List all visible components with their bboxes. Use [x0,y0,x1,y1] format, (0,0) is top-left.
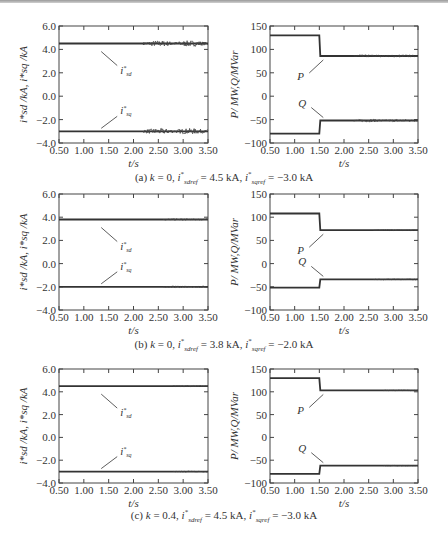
x-tick-label: 3.00 [384,311,404,323]
y-tick-label: 50 [256,409,268,421]
caption-isq-sub: sqref [256,516,270,524]
caption-b: (b) k = 0, i*sdref = 3.8 kA, i*sqref = −… [0,337,448,353]
caption-isq-value: = −2.0 kA [266,338,314,350]
x-tick-label: 2.00 [334,311,354,323]
y-tick-label: 0 [262,431,268,443]
annotation-q: Q [298,97,306,109]
caption-prefix: (a) [135,171,150,183]
caption-isq-sub: sqref [252,178,266,186]
y-axis-label: i*sd /kA, i*sq /kA [17,46,29,123]
caption-isd-value: = 4.5 kA, [198,171,245,183]
x-tick-label: 3.50 [198,144,218,156]
caption-k-value: = 0, [155,171,178,183]
y-tick-label: 4.0 [42,43,56,55]
caption-isd-sub: sdref [188,516,202,524]
y-axis-label: i*sd /kA, i*sq /kA [17,387,29,464]
x-tick-label: 2.00 [334,484,354,496]
series-P [270,35,418,56]
series-P [270,214,418,231]
y-axis-label: P/ MW,Q/MVar [228,217,240,287]
y-tick-label: 150 [251,363,268,375]
y-tick-label: 0.0 [42,431,56,443]
x-tick-label: 3.50 [408,484,428,496]
x-tick-label: 1.00 [285,144,305,156]
series-oscillation [384,465,419,466]
annotation-isd: i*sd [120,406,132,419]
series-Q [270,121,418,134]
x-tick-label: 3.00 [174,144,194,156]
annotation-isd: i*sd [120,64,132,77]
x-tick-label: 1.50 [99,484,119,496]
y-tick-label: 2.0 [42,234,56,246]
x-tick-label: 3.50 [408,311,428,323]
y-tick-label: 2.0 [42,409,56,421]
x-tick-label: 3.00 [174,311,194,323]
x-tick-label: 2.50 [359,311,379,323]
x-tick-label: 1.50 [310,311,330,323]
annotation-q: Q [298,442,306,454]
x-tick-label: 2.50 [149,311,169,323]
series-Q [270,466,418,474]
y-axis-label: i*sd /kA, i*sq /kA [17,213,29,290]
y-tick-label: 100 [251,43,268,55]
annotation-p: P [296,404,304,416]
x-tick-label: 2.00 [334,144,354,156]
y-tick-label: −4.0 [36,304,56,316]
y-tick-label: −50 [250,454,268,466]
plot-frame [270,26,418,143]
series-oscillation [143,41,208,47]
series-P [270,378,418,390]
caption-prefix: (c) [131,509,146,521]
y-tick-label: 0 [262,258,268,270]
y-tick-label: 100 [251,386,268,398]
figure-canvas: 0.501.001.502.002.503.003.50t/s6.04.02.0… [0,0,448,548]
plot-frame [59,194,208,310]
annotation-q: Q [298,255,306,267]
x-tick-label: 1.00 [285,484,305,496]
caption-c: (c) k = 0.4, i*sdref = 4.5 kA, i*sqref =… [0,508,448,524]
caption-k-value: = 0.4, [151,509,182,521]
x-tick-label: 1.00 [74,484,94,496]
x-tick-label: 2.50 [149,144,169,156]
x-tick-label: 1.00 [74,311,94,323]
x-axis-label: t/s [128,157,138,169]
plot-b-right: 0.501.001.502.002.503.003.50t/s150100500… [228,188,428,336]
y-tick-label: 4.0 [42,211,56,223]
caption-isd-value: = 4.5 kA, [202,509,249,521]
x-tick-label: 3.50 [198,484,218,496]
x-axis-label: t/s [128,324,138,336]
x-tick-label: 2.00 [124,484,144,496]
x-tick-label: 1.50 [99,311,119,323]
y-tick-label: 50 [256,67,268,79]
x-axis-label: t/s [339,157,349,169]
y-tick-label: −4.0 [36,477,56,489]
y-tick-label: 150 [251,20,268,32]
y-axis-label: P/ MW,Q/MVar [228,50,240,120]
series-oscillation [354,55,418,58]
x-tick-label: 1.50 [310,144,330,156]
caption-a: (a) k = 0, i*sdref = 4.5 kA, i*sqref = −… [0,170,448,186]
x-tick-label: 1.00 [285,311,305,323]
x-tick-label: 3.50 [408,144,428,156]
annotation-isq: i*sq [120,445,131,458]
y-tick-label: 0.0 [42,258,56,270]
y-tick-label: 6.0 [42,188,56,200]
x-tick-label: 2.50 [149,484,169,496]
y-tick-label: 150 [251,188,268,200]
plot-c-right: 0.501.001.502.002.503.003.50t/s150100500… [228,363,428,509]
plot-c-left: 0.501.001.502.002.503.003.50t/s6.04.02.0… [17,363,218,509]
caption-isq-sub: sqref [252,345,266,353]
annotation-isd: i*sd [120,240,132,253]
x-tick-label: 3.00 [384,144,404,156]
y-tick-label: 0.0 [42,90,56,102]
x-tick-label: 3.50 [198,311,218,323]
y-tick-label: 100 [251,211,268,223]
y-tick-label: −50 [250,281,268,293]
y-tick-label: 0 [262,90,268,102]
y-tick-label: −100 [244,304,267,316]
plot-frame [270,194,418,310]
x-tick-label: 3.00 [384,484,404,496]
y-tick-label: 2.0 [42,67,56,79]
y-tick-label: 4.0 [42,386,56,398]
caption-isd-sub: sdref [184,345,198,353]
